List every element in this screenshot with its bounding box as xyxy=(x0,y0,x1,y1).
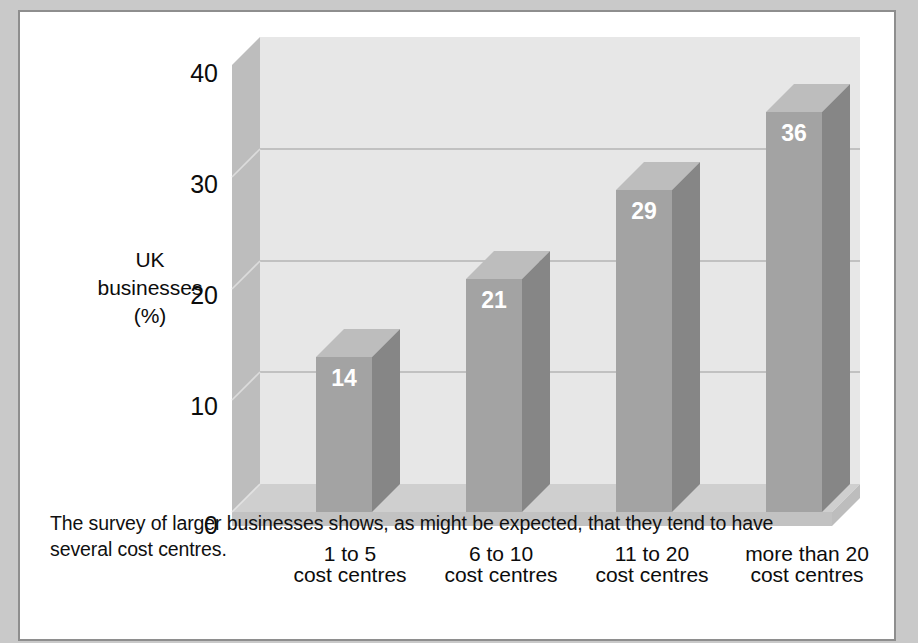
bar-4-front xyxy=(766,112,822,512)
figure-panel: 14 21 29 36 xyxy=(18,10,896,641)
bar-2-value-label: 21 xyxy=(481,287,507,313)
y-axis-title-line-2: businesses xyxy=(97,276,202,299)
bar-chart-figure: 14 21 29 36 xyxy=(20,12,894,572)
category-1-line-2: cost centres xyxy=(293,563,406,586)
ytick-label-10: 10 xyxy=(190,392,218,420)
bar-group-3[interactable]: 29 xyxy=(616,162,700,512)
bar-1-side xyxy=(372,329,400,512)
category-4-line-2: cost centres xyxy=(750,563,863,586)
bar-3-value-label: 29 xyxy=(631,198,657,224)
bar-3-front xyxy=(616,190,672,512)
bar-group-2[interactable]: 21 xyxy=(466,251,550,512)
bar-2-front xyxy=(466,279,522,512)
category-3-line-2: cost centres xyxy=(595,563,708,586)
caption-line-2: several cost centres. xyxy=(50,536,870,562)
caption-line-1: The survey of larger businesses shows, a… xyxy=(50,510,870,536)
y-axis-title-line-1: UK xyxy=(135,248,164,271)
bar-2-side xyxy=(522,251,550,512)
ytick-label-40: 40 xyxy=(190,59,218,87)
bar-4-value-label: 36 xyxy=(781,120,807,146)
y-axis-title-line-3: (%) xyxy=(134,304,167,327)
category-2-line-2: cost centres xyxy=(444,563,557,586)
category-sublabels: cost centres cost centres cost centres c… xyxy=(20,560,894,600)
bar-3-side xyxy=(672,162,700,512)
ytick-label-30: 30 xyxy=(190,170,218,198)
bar-1-value-label: 14 xyxy=(331,365,357,391)
chart-svg: 14 21 29 36 xyxy=(20,12,894,572)
bar-group-4[interactable]: 36 xyxy=(766,84,850,512)
bar-group-1[interactable]: 14 xyxy=(316,329,400,512)
bar-4-side xyxy=(822,84,850,512)
